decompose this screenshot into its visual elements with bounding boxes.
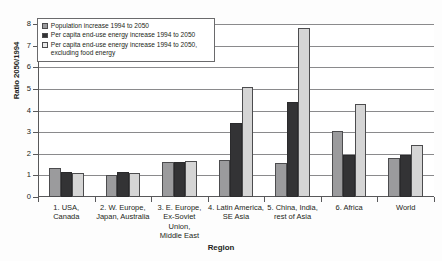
y-tick-label-7: 7 [27,42,31,50]
y-tick-label-8: 8 [27,20,31,28]
x-tick [208,197,209,202]
bar [219,160,231,197]
x-axis-label-line: rest of Asia [256,212,330,221]
x-tick [377,197,378,202]
legend: Population increase 1994 to 2050Per capi… [37,18,215,62]
bar-chart-figure: 012345678 Ratio 2050/1994 1. USA,Canada2… [0,0,442,261]
bar [298,28,310,197]
x-tick [264,197,265,202]
bar [242,87,254,197]
legend-label: Per capita end-use energy increase 1994 … [51,31,195,39]
bar [355,104,367,197]
bar [129,173,141,197]
bar [388,158,400,197]
bar [185,161,197,197]
y-tick-label-0: 0 [27,193,31,201]
legend-swatch-icon [42,23,48,29]
bar [174,162,186,197]
legend-item: Population increase 1994 to 2050 [42,22,210,30]
legend-item: Per capita end-use energy increase 1994 … [42,41,210,57]
y-tick-label-2: 2 [27,150,31,158]
y-tick-label-4: 4 [27,107,31,115]
y-tick-label-6: 6 [27,63,31,71]
bar-group [264,24,321,197]
bar [61,172,73,197]
bar [106,175,118,197]
legend-label: Per capita end-use energy increase 1994 … [51,41,210,57]
bar-group [321,24,378,197]
y-tick-label-1: 1 [27,172,31,180]
y-tick-label-3: 3 [27,128,31,136]
x-axis-title: Region [0,243,442,252]
x-axis-label: World [369,203,442,212]
bar [400,155,412,197]
bar [343,155,355,197]
y-axis-title: Ratio 2050/1994 [12,11,21,131]
legend-item: Per capita end-use energy increase 1994 … [42,31,210,39]
bar [275,163,287,197]
x-axis-label-line: World [369,203,442,212]
x-tick [151,197,152,202]
x-tick [38,197,39,202]
x-tick [434,197,435,202]
x-axis-label-line: Middle East [142,231,216,240]
bar [49,168,61,197]
legend-swatch-icon [42,42,48,48]
legend-label: Population increase 1994 to 2050 [51,22,149,30]
bar [332,131,344,197]
bar [287,102,299,197]
legend-swatch-icon [42,33,48,39]
bar [117,172,129,197]
y-tick-label-5: 5 [27,85,31,93]
x-tick [95,197,96,202]
bar-group [208,24,265,197]
bar [411,145,423,197]
x-axis-ticks [38,197,434,202]
bar-group [377,24,434,197]
bar [162,162,174,197]
bar [72,173,84,197]
x-tick [321,197,322,202]
bar [230,123,242,197]
x-axis-label-line: Union, [142,222,216,231]
